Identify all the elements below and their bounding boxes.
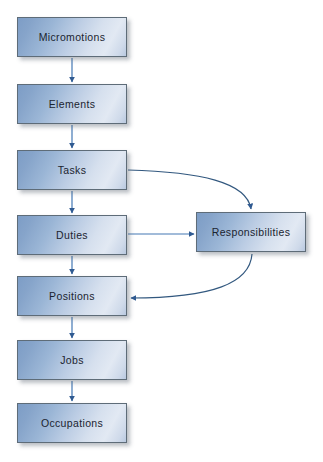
node-label-positions: Positions xyxy=(49,291,95,302)
diagram-canvas: Micromotions Elements Tasks Duties Posit… xyxy=(0,0,323,462)
node-label-tasks: Tasks xyxy=(58,165,87,176)
node-label-duties: Duties xyxy=(56,230,88,241)
node-label-responsibilities: Responsibilities xyxy=(212,227,291,238)
node-label-jobs: Jobs xyxy=(60,355,84,366)
node-elements[interactable]: Elements xyxy=(17,84,127,124)
node-micromotions[interactable]: Micromotions xyxy=(17,17,127,57)
connector-tasks-to-responsibilities xyxy=(128,170,251,209)
node-tasks[interactable]: Tasks xyxy=(17,150,127,190)
node-positions[interactable]: Positions xyxy=(17,276,127,316)
connector-responsibilities-to-positions xyxy=(131,254,252,298)
node-duties[interactable]: Duties xyxy=(17,215,127,255)
node-label-occupations: Occupations xyxy=(41,418,103,429)
node-label-micromotions: Micromotions xyxy=(39,32,106,43)
node-occupations[interactable]: Occupations xyxy=(17,403,127,443)
node-jobs[interactable]: Jobs xyxy=(17,340,127,380)
node-label-elements: Elements xyxy=(49,99,96,110)
node-responsibilities[interactable]: Responsibilities xyxy=(196,212,306,252)
